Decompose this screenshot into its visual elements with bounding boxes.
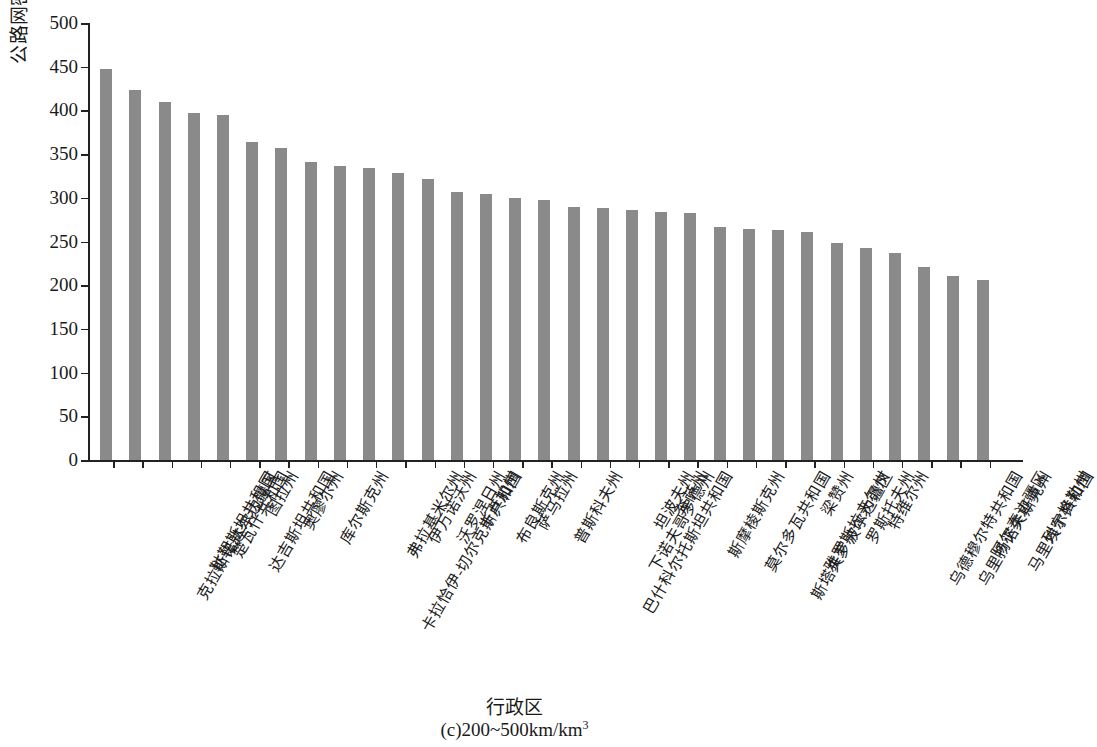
y-axis-tick-label: 350 — [22, 144, 78, 163]
x-axis-tick — [668, 461, 669, 468]
y-axis-tick-label: 150 — [22, 319, 78, 338]
y-axis-tick — [81, 198, 88, 200]
bar — [480, 194, 492, 460]
x-axis-tick — [347, 461, 348, 468]
x-axis-tick — [727, 461, 728, 468]
bar — [100, 69, 112, 460]
x-axis-tick — [844, 461, 845, 468]
y-axis-tick-label: 250 — [22, 232, 78, 251]
y-axis-tick-label: 200 — [22, 275, 78, 294]
bar — [246, 142, 258, 460]
bar — [684, 213, 696, 460]
bar — [597, 208, 609, 460]
bar — [714, 227, 726, 460]
bar — [918, 267, 930, 460]
x-axis-tick — [697, 461, 698, 468]
bar — [889, 253, 901, 460]
x-axis-tick — [259, 461, 260, 468]
y-axis-tick — [81, 373, 88, 375]
y-axis-tick-label: 0 — [22, 450, 78, 469]
bar — [188, 113, 200, 460]
y-axis-tick-label: 50 — [22, 406, 78, 425]
y-axis-tick — [81, 242, 88, 244]
x-axis-tick — [931, 461, 932, 468]
x-axis-line — [88, 460, 1023, 462]
bar — [451, 192, 463, 460]
bar — [217, 115, 229, 460]
x-axis-title: 行政区 — [0, 692, 1029, 719]
bar — [947, 276, 959, 460]
bar — [275, 148, 287, 460]
bar — [655, 212, 667, 460]
x-axis-tick — [113, 461, 114, 468]
x-axis-tick — [201, 461, 202, 468]
bar — [860, 248, 872, 460]
bar — [568, 207, 580, 460]
y-axis-tick — [81, 285, 88, 287]
y-axis-tick — [81, 416, 88, 418]
bar — [743, 229, 755, 460]
x-axis-tick — [873, 461, 874, 468]
x-axis-tick — [230, 461, 231, 468]
y-axis-tick — [81, 460, 88, 462]
figure-caption-main: (c)200~500km/km — [440, 719, 582, 740]
x-axis-tick — [435, 461, 436, 468]
x-axis-tick — [405, 461, 406, 468]
bar — [129, 90, 141, 460]
x-axis-tick-label: 普斯科夫州 — [572, 468, 626, 546]
x-axis-tick — [288, 461, 289, 468]
bar — [392, 173, 404, 460]
x-axis-tick — [785, 461, 786, 468]
x-axis-labels: 克拉斯诺达尔边疆区鞑靼斯坦共和国楚瓦什共和国达吉斯坦共和国图拉州奥廖尔州库尔斯克… — [88, 468, 1029, 683]
x-axis-tick — [990, 461, 991, 468]
y-axis-tick — [81, 110, 88, 112]
x-axis-tick — [960, 461, 961, 468]
bar — [305, 162, 317, 460]
bar — [422, 179, 434, 460]
bar — [363, 168, 375, 460]
bar — [159, 102, 171, 460]
bar — [626, 210, 638, 460]
bar — [509, 198, 521, 460]
y-axis-line — [88, 23, 90, 460]
bar — [334, 166, 346, 460]
y-axis-tick — [81, 329, 88, 331]
bar — [772, 230, 784, 460]
y-axis-tick — [81, 154, 88, 156]
x-axis-tick — [581, 461, 582, 468]
bar — [801, 232, 813, 460]
bar — [538, 200, 550, 460]
y-axis-tick — [81, 67, 88, 69]
plot-area: 050100150200250300350400450500 — [88, 23, 1023, 460]
y-axis-tick-label: 450 — [22, 57, 78, 76]
x-axis-tick-label: 库尔斯克州 — [338, 468, 392, 546]
x-axis-tick — [522, 461, 523, 468]
bar — [977, 280, 989, 460]
y-axis-tick-label: 300 — [22, 188, 78, 207]
figure-caption: (c)200~500km/km3 — [0, 718, 1029, 741]
y-axis-tick-label: 100 — [22, 363, 78, 382]
x-axis-tick — [814, 461, 815, 468]
x-axis-tick — [639, 461, 640, 468]
y-axis-tick-label: 500 — [22, 13, 78, 32]
x-axis-tick — [172, 461, 173, 468]
x-axis-tick — [318, 461, 319, 468]
x-axis-tick — [756, 461, 757, 468]
bar — [831, 243, 843, 460]
y-axis-tick — [81, 23, 88, 25]
y-axis-tick-label: 400 — [22, 100, 78, 119]
x-axis-tick — [142, 461, 143, 468]
figure-caption-superscript: 3 — [583, 718, 589, 732]
